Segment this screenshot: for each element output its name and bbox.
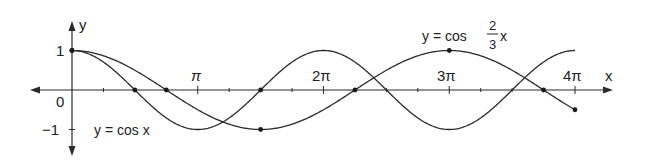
cosine-graph: y x 0 1 −1 π 2π 3π 4π y = cos x y = cos … [0,0,650,166]
cos-x-annotation: y = cos x [94,122,150,138]
x-axis-label: x [605,67,613,84]
cos23-denominator: 3 [489,37,496,52]
x-tick-label-2pi: 2π [312,67,331,84]
x-axis-right-arrow-icon [603,87,613,94]
point-marker [132,88,137,93]
cos23-prefix: y = cos [422,28,467,44]
cos23-numerator: 2 [489,18,496,33]
y-axis-label: y [79,16,87,33]
point-marker [353,88,358,93]
point-marker [258,88,263,93]
x-tick-label-3pi: 3π [437,67,456,84]
point-marker [573,107,578,112]
y-axis-down-arrow-icon [69,146,76,156]
point-marker [447,48,452,53]
origin-label: 0 [56,93,64,110]
point-marker [70,48,75,53]
x-axis-left-arrow-icon [30,87,40,94]
y-tick-label-1: 1 [56,42,64,59]
y-tick-label-neg1: −1 [42,121,59,138]
cos23-variable: x [500,28,507,44]
point-marker [164,88,169,93]
x-tick-label-4pi: 4π [563,67,582,84]
point-marker [258,127,263,132]
cos-two-thirds-x-annotation: y = cos 2 3 x [422,18,507,52]
point-marker [541,88,546,93]
x-tick-label-pi: π [191,67,202,84]
y-axis-up-arrow-icon [69,21,76,31]
